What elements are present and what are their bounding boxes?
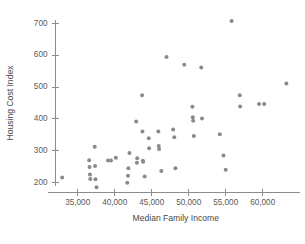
data-point bbox=[88, 177, 92, 181]
data-point bbox=[199, 65, 203, 69]
x-tick-label: 50,000 bbox=[176, 198, 201, 207]
data-point bbox=[143, 174, 147, 178]
data-point bbox=[238, 105, 242, 109]
data-point bbox=[157, 147, 161, 151]
data-point bbox=[218, 132, 222, 136]
data-point bbox=[60, 175, 64, 179]
y-tick-label: 500 bbox=[34, 82, 48, 91]
data-point bbox=[109, 159, 113, 163]
data-point bbox=[182, 63, 186, 67]
data-point bbox=[88, 173, 92, 177]
data-point bbox=[125, 181, 129, 185]
data-point bbox=[221, 153, 225, 157]
data-point bbox=[93, 177, 97, 181]
data-point bbox=[140, 93, 144, 97]
x-tick-label: 60,000 bbox=[250, 198, 275, 207]
data-point bbox=[172, 135, 176, 139]
data-point bbox=[159, 169, 163, 173]
data-point bbox=[191, 119, 195, 123]
x-axis-title: Median Family Income bbox=[133, 213, 220, 223]
y-axis-title: Housing Cost Index bbox=[5, 65, 15, 141]
data-point bbox=[128, 151, 132, 155]
y-tick-label: 700 bbox=[34, 19, 48, 28]
data-point bbox=[192, 134, 196, 138]
data-point bbox=[93, 145, 97, 149]
data-point bbox=[88, 165, 92, 169]
data-point bbox=[135, 156, 139, 160]
data-point bbox=[191, 115, 195, 119]
data-point bbox=[147, 136, 151, 140]
data-point bbox=[114, 156, 118, 160]
data-point bbox=[200, 117, 204, 121]
data-point bbox=[257, 102, 261, 106]
data-point bbox=[173, 166, 177, 170]
chart-canvas: 20030040050060070035,00040,00045,00050,0… bbox=[0, 0, 305, 244]
data-point bbox=[126, 174, 130, 178]
y-tick-label: 400 bbox=[34, 114, 48, 123]
y-tick-label: 200 bbox=[34, 178, 48, 187]
data-point bbox=[224, 168, 228, 172]
data-point bbox=[135, 161, 139, 165]
data-point bbox=[238, 93, 242, 97]
data-point bbox=[87, 158, 91, 162]
data-point bbox=[171, 127, 175, 131]
x-tick-label: 45,000 bbox=[139, 198, 164, 207]
data-point bbox=[230, 19, 234, 23]
scatter-plot-figure: 20030040050060070035,00040,00045,00050,0… bbox=[0, 0, 305, 244]
x-tick-label: 40,000 bbox=[102, 198, 127, 207]
data-point bbox=[126, 166, 130, 170]
data-point bbox=[93, 164, 97, 168]
data-point bbox=[134, 119, 138, 123]
data-point bbox=[190, 105, 194, 109]
data-point bbox=[284, 82, 288, 86]
data-point bbox=[140, 130, 144, 134]
x-tick-label: 55,000 bbox=[213, 198, 238, 207]
data-point bbox=[95, 185, 99, 189]
y-tick-label: 600 bbox=[34, 50, 48, 59]
data-point bbox=[262, 102, 266, 106]
data-point bbox=[156, 130, 160, 134]
x-tick-label: 35,000 bbox=[65, 198, 90, 207]
data-point bbox=[147, 146, 151, 150]
data-point bbox=[165, 55, 169, 59]
y-tick-label: 300 bbox=[34, 146, 48, 155]
data-point bbox=[141, 160, 145, 164]
